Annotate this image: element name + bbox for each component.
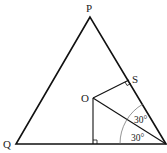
label-q: Q — [3, 138, 11, 150]
label-p: P — [86, 2, 92, 14]
label-o: O — [81, 92, 89, 104]
segment-os — [93, 80, 129, 98]
label-s: S — [132, 73, 138, 85]
geometry-diagram: P Q O S 30° 30° — [0, 0, 167, 153]
angle-label-upper: 30° — [134, 115, 148, 125]
angle-label-lower: 30° — [131, 133, 145, 143]
segment-or — [93, 98, 166, 144]
